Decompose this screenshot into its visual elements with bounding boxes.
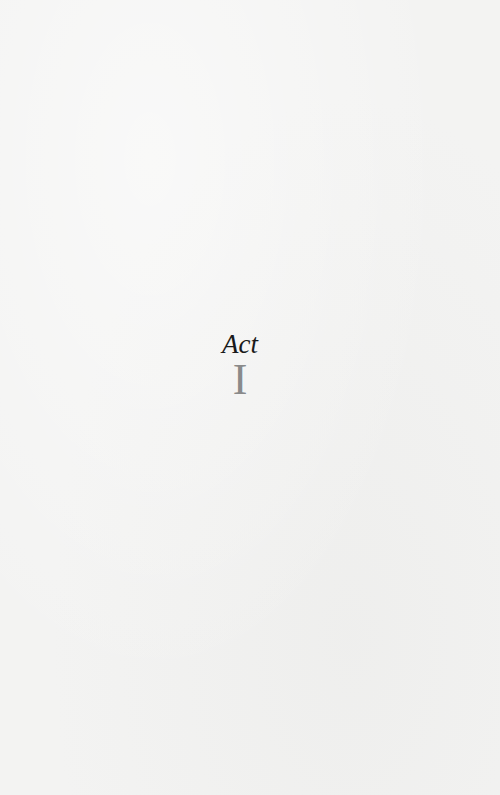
act-label: Act (0, 331, 480, 358)
act-number: I (0, 360, 480, 400)
book-page: Act I (0, 0, 500, 795)
act-heading: Act I (0, 331, 480, 400)
